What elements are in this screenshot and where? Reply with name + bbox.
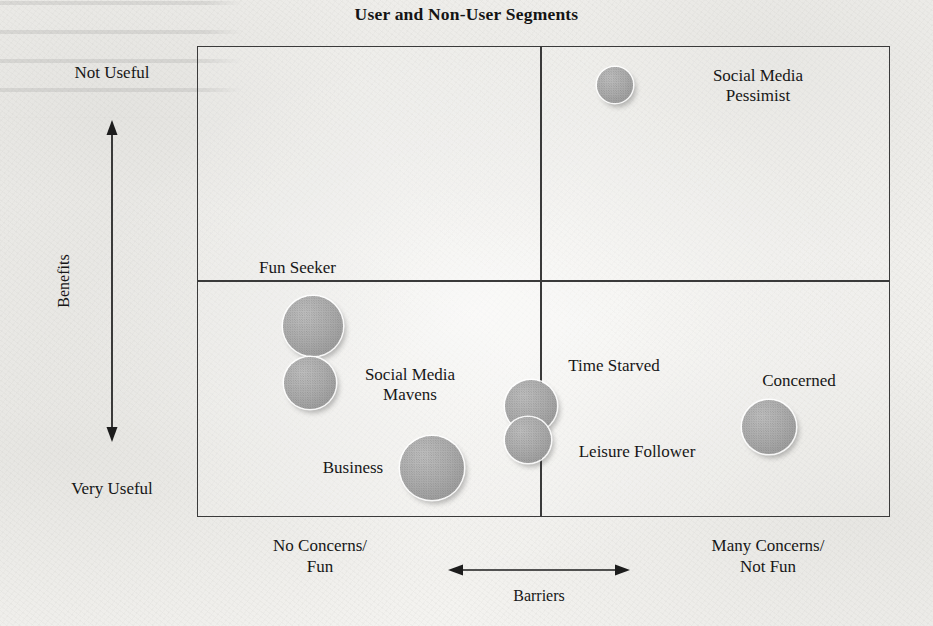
horizontal-divider xyxy=(198,280,889,282)
bubble-concerned[interactable] xyxy=(742,400,796,454)
x-axis-title: Barriers xyxy=(513,587,565,605)
x-axis-low-label: No Concerns/ Fun xyxy=(273,535,367,577)
x-axis-double-arrow-icon xyxy=(446,556,632,584)
label-time-starved: Time Starved xyxy=(568,356,659,376)
y-axis-top-label: Not Useful xyxy=(74,62,149,83)
bubble-social-media-mavens-1[interactable] xyxy=(283,296,343,356)
bubble-business[interactable] xyxy=(400,436,464,500)
y-axis-double-arrow-icon xyxy=(96,118,128,444)
bubble-leisure-follower[interactable] xyxy=(505,417,551,463)
label-concerned: Concerned xyxy=(762,371,836,391)
y-axis-bottom-label: Very Useful xyxy=(71,478,153,499)
bubble-social-media-pessimist[interactable] xyxy=(597,67,633,103)
bubble-social-media-mavens-2[interactable] xyxy=(284,357,336,409)
label-leisure-follower: Leisure Follower xyxy=(579,442,696,462)
label-social-media-mavens: Social Media Mavens xyxy=(365,365,455,405)
label-business: Business xyxy=(323,458,383,478)
y-axis-title: Benefits xyxy=(55,254,73,307)
page-title: User and Non-User Segments xyxy=(0,4,933,25)
x-axis-high-label: Many Concerns/ Not Fun xyxy=(712,535,825,577)
label-fun-seeker: Fun Seeker xyxy=(259,258,336,278)
label-social-media-pessimist: Social Media Pessimist xyxy=(713,66,803,106)
